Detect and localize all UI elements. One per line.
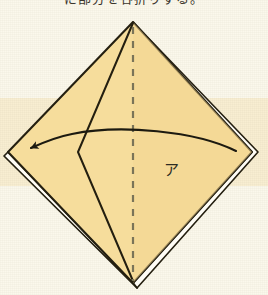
section-label-a: ア bbox=[164, 163, 179, 178]
folded-paper-diamond bbox=[8, 22, 252, 283]
origami-fold-diagram bbox=[0, 0, 268, 295]
origami-diagram-page: に部分を谷折りする。 bbox=[0, 0, 268, 295]
